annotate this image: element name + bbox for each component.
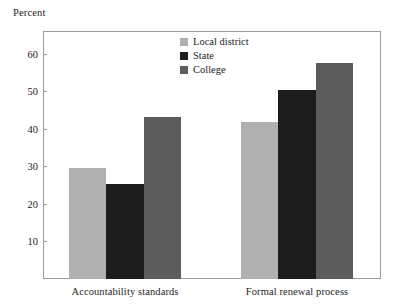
x-axis-group-label: Formal renewal process xyxy=(246,286,349,297)
chart-legend: Local district State College xyxy=(180,35,249,77)
y-axis-tick-label: 40 xyxy=(28,123,39,134)
legend-label-local-district: Local district xyxy=(193,36,249,47)
y-axis-tick-labels: 102030405060 xyxy=(0,0,38,305)
y-axis-tick-label: 20 xyxy=(28,198,39,209)
legend-item-college[interactable]: College xyxy=(180,63,249,76)
y-axis-tick-label: 50 xyxy=(28,86,39,97)
local-district-swatch-icon xyxy=(180,38,188,46)
legend-item-local-district[interactable]: Local district xyxy=(180,35,249,48)
state-swatch-icon xyxy=(180,52,188,60)
college-swatch-icon xyxy=(180,66,188,74)
bar xyxy=(316,63,354,279)
y-axis-tick-label: 60 xyxy=(28,48,39,59)
x-axis-group-label: Accountability standards xyxy=(71,286,178,297)
legend-item-state[interactable]: State xyxy=(180,49,249,62)
y-axis-tick-label: 30 xyxy=(28,161,39,172)
bar-chart-figure: Percent 102030405060 Accountability stan… xyxy=(0,0,399,305)
bar xyxy=(69,168,107,279)
bar xyxy=(106,184,144,279)
legend-label-college: College xyxy=(193,64,226,75)
bar xyxy=(278,90,316,279)
bar xyxy=(241,122,279,279)
legend-label-state: State xyxy=(193,50,214,61)
bar xyxy=(144,117,182,279)
y-axis-tick-label: 10 xyxy=(28,236,39,247)
